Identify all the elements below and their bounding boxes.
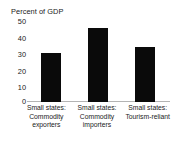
category-label-commodity-exporters: Small states: Commodity exporters — [21, 104, 72, 142]
category-label-line: Small states: — [122, 104, 173, 113]
bars-layer — [28, 18, 170, 102]
y-tick-30: 30 — [10, 51, 26, 59]
category-label-line: Commodity — [21, 113, 72, 122]
bar-slot-0 — [28, 18, 74, 102]
y-tick-20: 20 — [10, 68, 26, 76]
category-label-tourism-reliant: Small states: Tourism-reliant — [122, 104, 173, 142]
category-label-line: Small states: — [21, 104, 72, 113]
category-label-line: importers — [72, 121, 123, 130]
bar-commodity-exporters — [41, 53, 61, 102]
y-tick-40: 40 — [10, 35, 26, 43]
category-label-line: Tourism-reliant — [122, 113, 173, 122]
bar-commodity-importers — [88, 28, 108, 102]
category-label-line: exporters — [21, 121, 72, 130]
bar-chart-figure: Percent of GDP 50 40 30 20 10 0 Small st… — [0, 0, 173, 142]
y-tick-10: 10 — [10, 84, 26, 92]
bar-slot-2 — [122, 18, 168, 102]
x-axis-category-labels: Small states: Commodity exporters Small … — [21, 104, 173, 142]
bar-slot-1 — [75, 18, 121, 102]
y-tick-50: 50 — [10, 18, 26, 26]
category-label-line: Small states: — [72, 104, 123, 113]
bar-tourism-reliant — [135, 47, 155, 102]
category-label-commodity-importers: Small states: Commodity importers — [72, 104, 123, 142]
category-label-line: Commodity — [72, 113, 123, 122]
